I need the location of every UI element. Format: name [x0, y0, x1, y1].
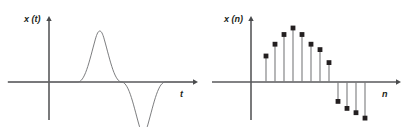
discrete-y-axis-label: x (n): [223, 14, 243, 24]
stem-marker: [327, 60, 332, 65]
stem-marker: [282, 32, 287, 37]
continuous-x-axis-label: t: [180, 89, 184, 99]
stem-marker: [291, 26, 296, 31]
stem-marker: [309, 42, 314, 47]
discrete-y-axis-label-text: x (n): [223, 14, 243, 24]
x-of-n-axis-arrow-icon: [248, 16, 253, 21]
stem-marker: [363, 116, 368, 121]
continuous-y-axis-label: x (t): [23, 14, 41, 24]
stem-marker: [318, 47, 323, 52]
discrete-x-axis-label: n: [382, 89, 388, 99]
stem-marker: [354, 110, 359, 115]
continuous-x-axis-label-text: t: [180, 89, 184, 99]
continuous-y-axis-label-text: x (t): [23, 14, 41, 24]
stem-group-negative: [336, 82, 368, 121]
stem-marker: [273, 42, 278, 47]
panel-discrete-time-signal: x (n) n: [212, 14, 401, 121]
n-axis-arrow-icon: [396, 79, 401, 85]
t-axis-arrow-icon: [193, 79, 198, 85]
discrete-x-axis-label-text: n: [382, 89, 388, 99]
stem-marker: [336, 99, 341, 104]
signal-comparison-figure: x (t) t: [0, 0, 407, 127]
x-of-t-axis-arrow-icon: [46, 16, 51, 21]
continuous-sine-curve: [8, 31, 193, 127]
stem-marker: [345, 106, 350, 111]
stem-marker: [300, 32, 305, 37]
stem-group-positive: [264, 26, 332, 82]
stem-marker: [264, 54, 269, 59]
panel-continuous-time-signal: x (t) t: [8, 14, 198, 127]
